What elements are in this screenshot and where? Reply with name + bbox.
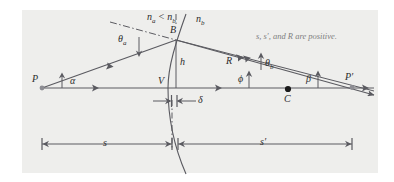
label-delta: δ [198,95,203,105]
label-theta-a-sub: a [123,39,127,47]
label-V: V [158,76,164,86]
optics-refraction-figure: P P′ B V C na < nb nb θa θb α β ϕ h R δ … [0,0,394,182]
label-phi: ϕ [238,74,243,84]
delta-measure [153,95,196,107]
figure-drawing [0,0,394,182]
label-nb-sub-2: b [201,19,205,27]
refracted-ray [176,40,374,95]
optic-axis [42,85,374,92]
label-lessthan: < n [156,11,173,22]
radius-line [176,40,374,91]
point-P-dot [40,86,45,91]
label-theta-a: θa [118,34,126,47]
label-s-prime: s′ [260,137,266,147]
spherical-surface [168,14,186,174]
label-nb-sub-1: b [172,17,176,25]
label-R: R [226,56,232,66]
angle-ticks [59,37,321,88]
dimension-s [42,138,172,150]
label-B: B [170,25,176,35]
label-alpha: α [70,76,75,86]
label-theta-b-sub: b [270,63,274,71]
label-P: P [32,74,38,84]
label-index-nb: nb [196,14,205,27]
point-Pprime-dot [350,85,355,90]
sign-convention-note: s, s′, and R are positive. [256,31,337,41]
label-beta: β [306,74,311,84]
label-theta-b: θb [265,58,273,71]
label-C: C [284,94,291,104]
point-markers [40,85,355,92]
label-P-prime: P′ [345,72,353,82]
label-h: h [180,57,185,67]
label-index-comparison: na < nb [147,12,176,25]
point-C-dot [285,86,291,92]
label-s: s [103,138,107,148]
